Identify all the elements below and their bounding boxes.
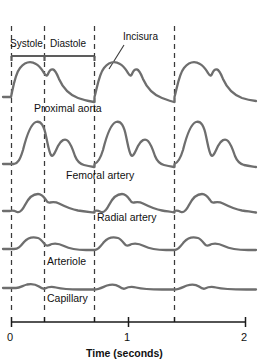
trace-label-proximal-aorta: Proximal aorta — [34, 102, 102, 114]
trace-label-capillary: Capillary — [47, 292, 89, 304]
pressure-waveform-figure: Systole Diastole Incisura Proximal aorta… — [0, 0, 258, 362]
phase-bar — [11, 56, 95, 61]
trace-capillary: Capillary — [3, 284, 256, 304]
waveform-path-femoral-artery — [3, 122, 256, 167]
systole-label: Systole — [10, 38, 43, 49]
trace-proximal-aorta: Proximal aorta — [3, 62, 256, 114]
waveform-path-arteriole — [3, 237, 256, 250]
trace-femoral-artery: Femoral artery — [3, 122, 256, 181]
diastole-label: Diastole — [50, 38, 87, 49]
trace-arteriole: Arteriole — [3, 237, 256, 267]
waveform-path-proximal-aorta — [3, 62, 256, 102]
trace-label-femoral-artery: Femoral artery — [66, 169, 135, 181]
x-axis-tick-label-2: 2 — [241, 331, 247, 343]
trace-label-radial-artery: Radial artery — [97, 211, 157, 223]
x-axis-tick-label-1: 1 — [124, 331, 130, 343]
trace-radial-artery: Radial artery — [3, 194, 256, 223]
x-axis-title: Time (seconds) — [86, 347, 163, 359]
incisura-label: Incisura — [123, 31, 158, 42]
x-axis-tick-label-0: 0 — [7, 331, 13, 343]
waveform-path-radial-artery — [3, 194, 256, 213]
trace-label-arteriole: Arteriole — [47, 255, 86, 267]
waveform-path-capillary — [3, 284, 256, 289]
x-axis: 0 1 2 Time (seconds) — [7, 317, 247, 359]
waveform-svg: Systole Diastole Incisura Proximal aorta… — [0, 0, 258, 362]
